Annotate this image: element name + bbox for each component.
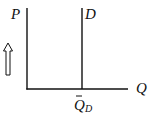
up-arrow-icon [4,43,13,75]
y-axis-label: P [10,6,20,22]
demand-diagram: P D Q Q D [0,0,149,116]
quantity-subscript: D [84,103,93,114]
quantity-label: Q [74,97,85,113]
curve-label: D [84,6,96,22]
x-axis-label: Q [136,80,147,96]
